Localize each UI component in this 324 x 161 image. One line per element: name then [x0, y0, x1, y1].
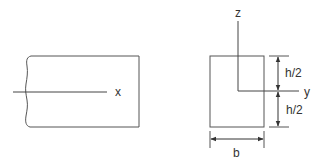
beam-side-view: x [13, 56, 139, 127]
width-label: b [233, 146, 240, 160]
z-axis-label: z [235, 6, 241, 20]
y-axis-label: y [304, 85, 310, 99]
beam-diagram: x z y h/2 h/2 b [0, 0, 324, 161]
cross-section-view: z y h/2 h/2 b [210, 6, 310, 160]
height-upper-label: h/2 [285, 66, 302, 80]
x-axis-label: x [115, 85, 121, 99]
height-lower-label: h/2 [286, 103, 303, 117]
